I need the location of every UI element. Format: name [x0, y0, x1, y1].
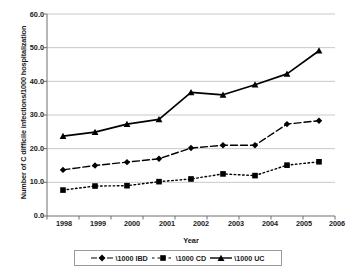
chart-container: Number of C difficile infections/1000 ho… [0, 0, 355, 272]
data-point [92, 183, 98, 189]
x-tick-label: 2000 [112, 220, 152, 227]
legend-marker-diamond-icon [91, 253, 113, 263]
x-tick-label: 2006 [317, 220, 355, 227]
data-point [316, 118, 322, 124]
series-diamond [60, 118, 322, 174]
data-point [124, 159, 130, 165]
legend-item-ibd[interactable]: \1000 IBD [91, 253, 147, 263]
data-point [316, 47, 323, 53]
data-point [316, 159, 322, 165]
data-point [188, 145, 194, 151]
legend-label-cd: \1000 CD [176, 254, 206, 263]
series-line [63, 162, 319, 190]
data-point [156, 156, 162, 162]
data-point [124, 183, 130, 189]
data-point [188, 176, 194, 182]
legend-marker-triangle-icon [210, 253, 232, 263]
chart-legend: \1000 IBD \1000 CD \1000 UC [74, 250, 282, 266]
data-point [92, 162, 98, 168]
data-point [252, 173, 258, 179]
series-square [60, 159, 322, 193]
data-point [220, 142, 226, 148]
x-tick-label: 2002 [181, 220, 221, 227]
data-point [220, 171, 226, 177]
legend-marker-square-icon [152, 253, 174, 263]
data-point [60, 167, 66, 173]
legend-label-uc: \1000 UC [234, 254, 264, 263]
legend-label-ibd: \1000 IBD [115, 254, 147, 263]
legend-item-cd[interactable]: \1000 CD [152, 253, 206, 263]
plot-area [0, 0, 355, 272]
series-triangle [60, 47, 323, 139]
data-point [284, 162, 290, 168]
data-point [252, 142, 258, 148]
data-point [156, 179, 162, 185]
x-axis-title: Year [47, 236, 335, 245]
data-point [60, 187, 66, 193]
legend-item-uc[interactable]: \1000 UC [210, 253, 264, 263]
